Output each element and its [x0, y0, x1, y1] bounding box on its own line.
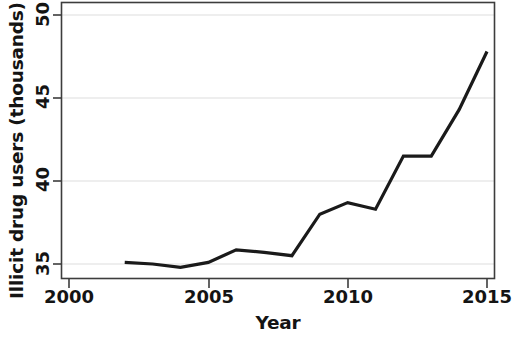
grid-lines: [62, 15, 494, 264]
data-line-illicit-drug-users: [125, 52, 487, 268]
plot-border: [62, 3, 495, 279]
y-axis-ticks: [53, 15, 61, 264]
data-series-group: [125, 52, 487, 268]
x-axis-ticks: [69, 279, 487, 288]
